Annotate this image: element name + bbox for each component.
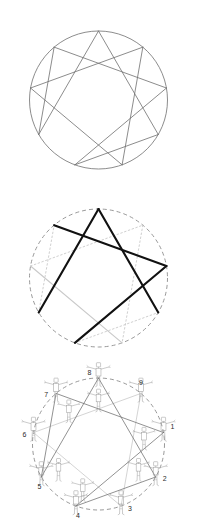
human-figure-point-7	[44, 378, 68, 402]
number-label-7: 7	[44, 391, 48, 398]
panel-1-canvas	[0, 0, 197, 178]
panel-3-canvas: 123456789	[0, 356, 197, 531]
panel-1-circle-group	[30, 31, 168, 169]
panel-2-canvas	[0, 178, 197, 356]
human-figure-point-2	[144, 462, 168, 486]
panel-numbered-enneagram: 123456789	[0, 356, 197, 531]
panel-2-circle-group	[30, 209, 168, 347]
human-figure-inner-5	[47, 459, 70, 482]
number-label-3: 3	[128, 505, 132, 512]
panel-highlighted-enneagram	[0, 178, 197, 356]
hexad-line-1-4	[75, 88, 167, 165]
panel-3-circle-group	[33, 378, 165, 510]
number-label-2: 2	[163, 475, 167, 482]
number-label-9: 9	[139, 379, 143, 386]
figure-root: 123456789	[0, 0, 197, 531]
panel-3-number-labels: 123456789	[23, 369, 175, 519]
triad-line-9-3	[122, 47, 143, 165]
human-figure-point-5	[29, 462, 53, 486]
human-figure-inner-2	[127, 459, 150, 482]
panel-3-figure-group	[22, 363, 176, 515]
enneagram-circle	[30, 31, 168, 169]
number-label-5: 5	[37, 483, 41, 490]
triad-line-3-6	[31, 88, 123, 165]
number-label-6: 6	[23, 431, 27, 438]
number-label-4: 4	[76, 512, 80, 519]
triad-line-9-3	[122, 225, 143, 343]
enneagram-circle-dashed	[30, 209, 168, 347]
panel-plain-enneagram	[0, 0, 197, 178]
hexad-line-2-8	[99, 378, 156, 477]
triad-line-9-3	[121, 393, 141, 506]
panel-1-star-lines	[31, 31, 167, 165]
hexad-line-2-8	[99, 31, 159, 135]
human-figure-inner-1	[133, 427, 156, 450]
number-label-8: 8	[88, 369, 92, 376]
number-label-1: 1	[171, 423, 175, 430]
human-figure-inner-4	[71, 479, 94, 502]
enneagram-circle-dashed	[33, 378, 165, 510]
panel-3-triad-lines	[34, 393, 141, 506]
